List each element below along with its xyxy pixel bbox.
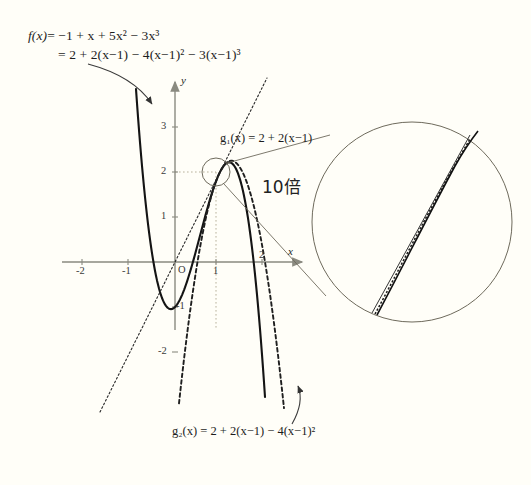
- formula-f-line1: f(x)= −1 + x + 5x² − 3x³: [28, 28, 159, 44]
- x-tick-2: 2: [259, 249, 264, 260]
- diagram-svg: [0, 0, 531, 485]
- formula-g1: g₁(x) = 2 + 2(x−1): [220, 131, 312, 146]
- magnified-content: [372, 131, 478, 315]
- axis-label-x: x: [288, 245, 293, 257]
- formula-f-line1-body: = −1 + x + 5x² − 3x³: [47, 28, 159, 43]
- x-tick--2: -2: [76, 265, 85, 276]
- formula-f-head: f(x): [28, 28, 47, 43]
- magnified-circle: [312, 122, 512, 322]
- x-tick-1: 1: [213, 265, 218, 276]
- y-tick--1: -1: [176, 300, 185, 311]
- formula-f-line2: = 2 + 2(x−1) − 4(x−1)² − 3(x−1)³: [58, 47, 241, 63]
- y-tick-2: 2: [161, 165, 166, 176]
- annotation-arrow-f: [88, 64, 152, 104]
- y-tick-1: 1: [161, 210, 166, 221]
- axis-label-y: y: [181, 74, 186, 86]
- annotation-arrow-g2: [292, 386, 300, 424]
- magnifier-connector: [224, 135, 330, 296]
- figure-canvas: f(x)= −1 + x + 5x² − 3x³ = 2 + 2(x−1) − …: [0, 0, 531, 485]
- y-tick-3: 3: [161, 120, 166, 131]
- formula-g2: g₂(x) = 2 + 2(x−1) − 4(x−1)²: [172, 424, 315, 439]
- x-tick--1: -1: [122, 265, 131, 276]
- y-tick--2: -2: [158, 345, 167, 356]
- magnification-label: 10倍: [262, 173, 301, 198]
- origin-label: O: [178, 264, 186, 275]
